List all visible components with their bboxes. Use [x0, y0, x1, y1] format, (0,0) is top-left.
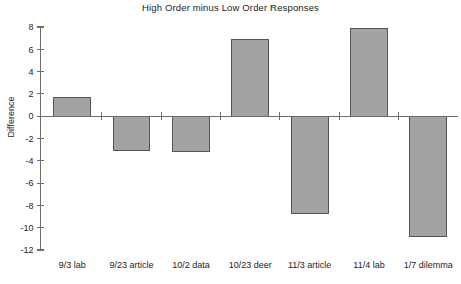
y-tick-label: 2 — [28, 89, 33, 99]
bar — [351, 28, 388, 116]
x-category-label: 9/23 article — [109, 260, 153, 270]
y-tick-labels: 86420-2-4-6-8-10-12 — [20, 22, 33, 255]
y-tick-label: 8 — [28, 22, 33, 32]
y-tick-label: 6 — [28, 45, 33, 55]
x-category-labels: 9/3 lab9/23 article10/2 data10/23 deer11… — [59, 260, 453, 270]
bar — [113, 116, 150, 151]
plot-area: 86420-2-4-6-8-10-12 9/3 lab9/23 article1… — [0, 0, 461, 284]
x-category-label: 11/4 lab — [353, 260, 384, 270]
x-category-label: 11/3 article — [288, 260, 331, 270]
y-tick-label: -10 — [20, 223, 33, 233]
x-category-label: 10/2 data — [172, 260, 210, 270]
bar — [410, 116, 447, 236]
bars-group — [54, 28, 447, 237]
y-tick-label: -8 — [25, 201, 33, 211]
y-tick-label: 4 — [28, 67, 33, 77]
y-tick-label: -12 — [20, 245, 33, 255]
y-tick-label: -2 — [25, 134, 33, 144]
y-tick-label: 0 — [28, 111, 33, 121]
x-category-label: 1/7 dilemma — [404, 260, 453, 270]
y-tick-label: -4 — [25, 156, 33, 166]
bar — [232, 39, 269, 116]
bar — [291, 116, 328, 213]
y-tick-label: -6 — [25, 178, 33, 188]
bar — [54, 98, 91, 116]
bar — [173, 116, 210, 151]
bar-chart: High Order minus Low Order Responses Dif… — [0, 0, 461, 284]
x-category-label: 9/3 lab — [59, 260, 86, 270]
x-category-label: 10/23 deer — [229, 260, 272, 270]
